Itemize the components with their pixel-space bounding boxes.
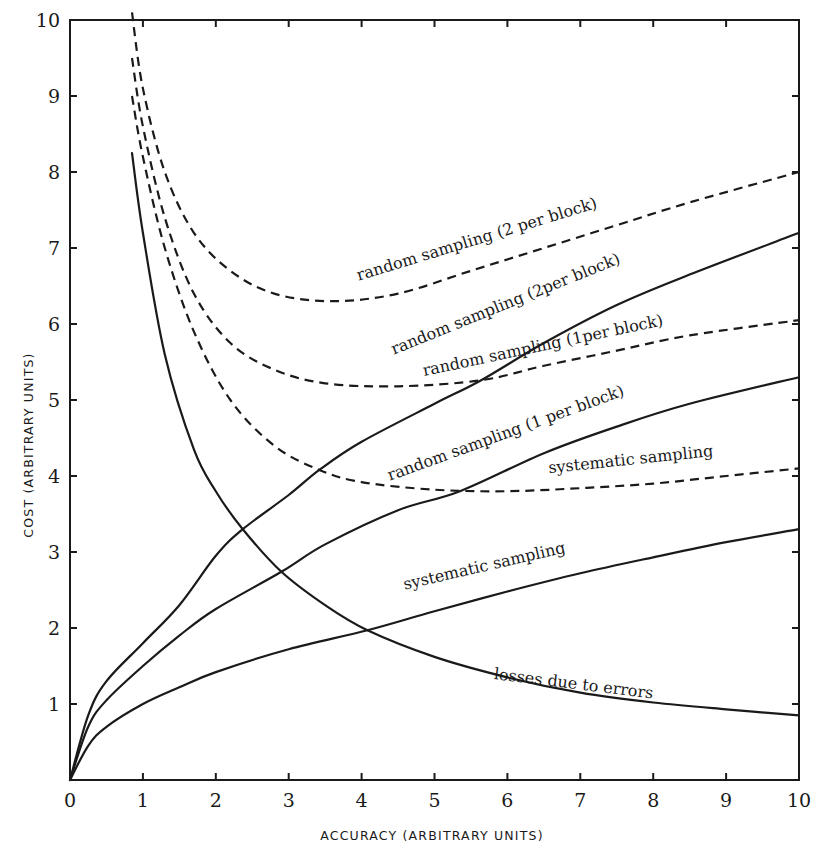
- y-tick-label: 8: [48, 161, 60, 183]
- y-tick-label: 6: [48, 313, 60, 335]
- plot-frame: [70, 20, 799, 780]
- curve-label: systematic sampling: [547, 441, 714, 477]
- x-tick-label: 3: [283, 789, 295, 811]
- y-tick-label: 4: [48, 465, 60, 487]
- curve-systematic-sampling-total: [132, 96, 799, 491]
- x-tick-label: 10: [787, 789, 811, 811]
- y-tick-label: 10: [36, 9, 60, 31]
- cost-accuracy-chart: 01234567891012345678910 random sampling …: [0, 0, 823, 849]
- x-tick-label: 4: [356, 789, 368, 811]
- x-tick-label: 5: [428, 789, 440, 811]
- y-tick-label: 7: [48, 237, 60, 259]
- curve-labels: random sampling (2 per block)random samp…: [354, 193, 714, 702]
- x-axis-title: ACCURACY (ARBITRARY UNITS): [320, 828, 544, 843]
- y-tick-label: 9: [48, 85, 60, 107]
- y-tick-label: 3: [48, 541, 60, 563]
- curves: [70, 12, 799, 780]
- x-tick-label: 9: [720, 789, 732, 811]
- y-tick-label: 5: [48, 389, 60, 411]
- x-tick-label: 8: [647, 789, 659, 811]
- curve-random-sampling-2-per-block: [70, 233, 799, 780]
- y-tick-label: 2: [48, 617, 60, 639]
- x-tick-label: 1: [137, 789, 149, 811]
- x-tick-label: 6: [501, 789, 513, 811]
- curve-random-sampling-2-per-block-total: [132, 12, 799, 301]
- curve-label: losses due to errors: [493, 664, 655, 702]
- x-tick-label: 7: [574, 789, 586, 811]
- y-tick-label: 1: [48, 693, 60, 715]
- y-axis-title: COST (ARBITRARY UNITS): [21, 352, 36, 537]
- curve-label: systematic sampling: [401, 538, 567, 594]
- curve-random-sampling-1-per-block-total: [132, 58, 799, 386]
- plot-border: [70, 20, 799, 780]
- x-tick-label: 2: [210, 789, 222, 811]
- x-tick-label: 0: [64, 789, 76, 811]
